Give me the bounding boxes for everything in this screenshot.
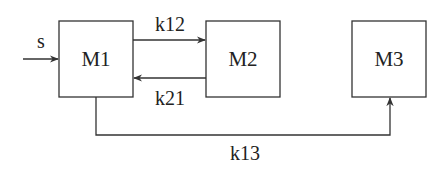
node-m2-label: M2 bbox=[228, 47, 257, 71]
node-m3-label: M3 bbox=[374, 47, 403, 71]
edge-k12: k12 bbox=[133, 13, 205, 40]
edge-label-k21: k21 bbox=[155, 87, 185, 109]
node-m3: M3 bbox=[352, 21, 426, 97]
edge-label-k12: k12 bbox=[155, 13, 185, 35]
arrow-m1-to-m3 bbox=[96, 97, 390, 135]
compartment-diagram: s M1 M2 M3 k12 k21 k13 bbox=[0, 0, 448, 173]
edge-label-s: s bbox=[37, 30, 45, 52]
node-m1: M1 bbox=[59, 21, 133, 97]
edge-k13: k13 bbox=[96, 97, 390, 164]
input-edge-s: s bbox=[23, 30, 58, 59]
edge-label-k13: k13 bbox=[230, 142, 260, 164]
edge-k21: k21 bbox=[134, 78, 206, 109]
node-m1-label: M1 bbox=[81, 47, 110, 71]
node-m2: M2 bbox=[206, 21, 280, 97]
